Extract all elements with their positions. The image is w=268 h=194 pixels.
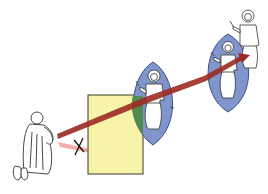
kneeling-figure bbox=[13, 112, 53, 180]
icon-veneration-diagram bbox=[0, 0, 268, 194]
